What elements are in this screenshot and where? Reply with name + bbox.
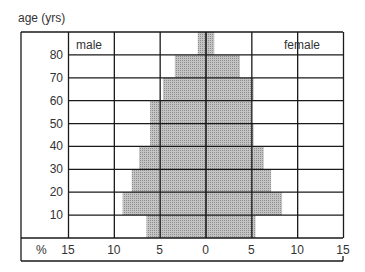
- bar-female-20-30: [206, 169, 271, 192]
- bar-female-60-70: [206, 78, 254, 101]
- bar-male-80+: [198, 32, 206, 55]
- percent-label: %: [36, 243, 47, 257]
- population-pyramid-chart: age (yrs) 1020304050607080 15105051015 m…: [0, 0, 365, 272]
- male-label: male: [76, 38, 102, 52]
- x-tick-0: 15: [61, 243, 75, 257]
- y-tick-50: 50: [50, 117, 64, 131]
- y-tick-70: 70: [50, 71, 64, 85]
- bar-male-10-20: [123, 192, 206, 215]
- x-tick-4: 5: [248, 243, 255, 257]
- x-tick-6: 15: [336, 243, 350, 257]
- bar-female-0-10: [206, 215, 256, 238]
- bar-male-40-50: [150, 124, 206, 147]
- bar-male-70-80: [175, 55, 206, 78]
- bar-male-50-60: [150, 101, 206, 124]
- y-tick-80: 80: [50, 48, 64, 62]
- bar-female-40-50: [206, 124, 254, 147]
- bar-male-0-10: [146, 215, 206, 238]
- x-tick-2: 5: [156, 243, 163, 257]
- bars-group: [123, 32, 283, 238]
- bar-male-20-30: [132, 169, 206, 192]
- bar-female-50-60: [206, 101, 252, 124]
- x-tick-5: 10: [290, 243, 304, 257]
- bar-female-10-20: [206, 192, 282, 215]
- y-axis-title: age (yrs): [18, 11, 65, 25]
- x-tick-3: 0: [202, 243, 209, 257]
- y-tick-labels: 1020304050607080: [50, 48, 64, 222]
- x-tick-1: 10: [107, 243, 121, 257]
- y-tick-10: 10: [50, 208, 64, 222]
- y-tick-60: 60: [50, 94, 64, 108]
- bar-male-60-70: [163, 78, 206, 101]
- y-tick-20: 20: [50, 185, 64, 199]
- x-tick-labels: 15105051015: [61, 243, 350, 257]
- y-tick-30: 30: [50, 162, 64, 176]
- bar-female-80+: [206, 32, 214, 55]
- bar-female-70-80: [206, 55, 240, 78]
- bar-female-30-40: [206, 146, 264, 169]
- bar-male-30-40: [139, 146, 206, 169]
- female-label: female: [284, 38, 320, 52]
- y-tick-40: 40: [50, 139, 64, 153]
